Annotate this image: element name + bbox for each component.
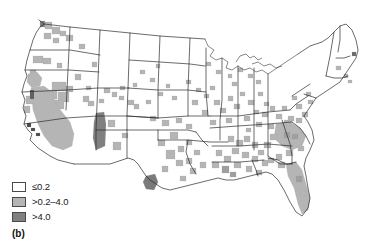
legend-item-high: >4.0 [12, 210, 68, 224]
legend-item-low: ≤0.2 [12, 180, 68, 194]
region-northern-rockies [75, 44, 97, 90]
region-upper-midwest [206, 62, 261, 84]
legend-label-mid: >0.2–4.0 [32, 197, 68, 207]
region-great-plains [133, 64, 177, 104]
map-legend: ≤0.2 >0.2–4.0 >4.0 [12, 180, 68, 225]
legend-swatch-mid [12, 197, 26, 207]
region-midwest [186, 80, 269, 125]
legend-item-mid: >0.2–4.0 [12, 195, 68, 209]
region-pacific-northwest [30, 21, 73, 76]
region-colorado [99, 86, 125, 103]
region-southwest [93, 96, 139, 150]
state-borders-layer [22, 20, 358, 216]
figure-panel-b: ≤0.2 >0.2–4.0 >4.0 (b) [0, 0, 389, 252]
region-florida [268, 158, 310, 214]
region-california-shading [24, 72, 74, 150]
panel-label: (b) [12, 228, 25, 239]
legend-label-low: ≤0.2 [32, 182, 50, 192]
legend-swatch-low [12, 182, 26, 192]
region-texas [143, 116, 206, 190]
legend-label-high: >4.0 [32, 212, 50, 222]
legend-swatch-high [12, 212, 26, 222]
